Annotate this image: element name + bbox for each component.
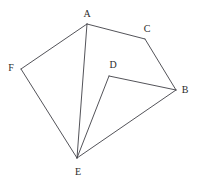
vertex-label-c: C	[144, 24, 151, 34]
geometry-edges-svg	[0, 0, 197, 184]
edge-f-e	[21, 69, 77, 158]
edge-d-b	[109, 76, 176, 90]
edge-b-e	[77, 90, 176, 158]
vertex-label-e: E	[75, 167, 81, 177]
edge-a-c	[87, 24, 145, 39]
vertex-label-f: F	[8, 63, 14, 73]
edge-a-f	[21, 24, 87, 69]
edge-a-e	[77, 24, 87, 158]
vertex-label-a: A	[83, 9, 90, 19]
edges-group	[21, 24, 176, 158]
vertex-label-b: B	[182, 85, 189, 95]
edge-c-b	[145, 39, 176, 90]
vertex-label-d: D	[109, 60, 116, 70]
geometry-figure-canvas: ABCDEF	[0, 0, 197, 184]
